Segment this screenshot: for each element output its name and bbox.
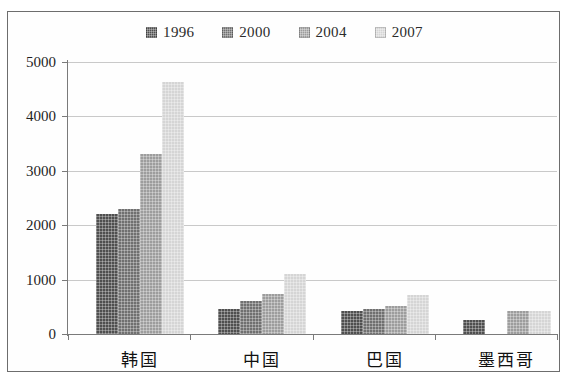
x-axis-label-0: 韩国 [121,346,159,371]
bar-韩国-2004[interactable] [140,154,162,334]
chart-frame: 1996 2000 2004 2007 01000200030004000500… [7,11,560,372]
y-tick-label-5000: 5000 [0,54,56,71]
y-tick-label-2000: 2000 [0,217,56,234]
x-tick-mark-1 [313,334,314,340]
bar-巴国-1996[interactable] [341,311,363,334]
x-tick-mark-2 [435,334,436,340]
y-tick-label-0: 0 [0,326,56,343]
y-tick-label-3000: 3000 [0,162,56,179]
y-tick-label-1000: 1000 [0,271,56,288]
x-tick-mark-3 [557,334,558,340]
bar-中国-2000[interactable] [240,301,262,334]
bar-墨西哥-2004[interactable] [507,311,529,334]
bar-墨西哥-1996[interactable] [463,320,485,334]
bars-layer [68,62,557,334]
bar-中国-1996[interactable] [218,309,240,334]
bar-巴国-2007[interactable] [407,295,429,334]
bar-墨西哥-2007[interactable] [529,311,551,334]
bar-韩国-2007[interactable] [162,82,184,334]
y-tick-label-4000: 4000 [0,108,56,125]
x-axis-label-1: 中国 [243,346,281,371]
x-tick-mark-origin [68,334,69,340]
bar-中国-2007[interactable] [284,274,306,334]
bar-巴国-2004[interactable] [385,306,407,334]
bar-韩国-2000[interactable] [118,209,140,334]
bar-巴国-2000[interactable] [363,309,385,334]
plot-area: 010002000300040005000 韩国中国巴国墨西哥 [8,12,561,373]
x-tick-mark-0 [190,334,191,340]
x-axis-label-3: 墨西哥 [478,346,535,371]
x-axis-label-2: 巴国 [366,346,404,371]
bar-韩国-1996[interactable] [96,214,118,334]
bar-中国-2004[interactable] [262,294,284,334]
